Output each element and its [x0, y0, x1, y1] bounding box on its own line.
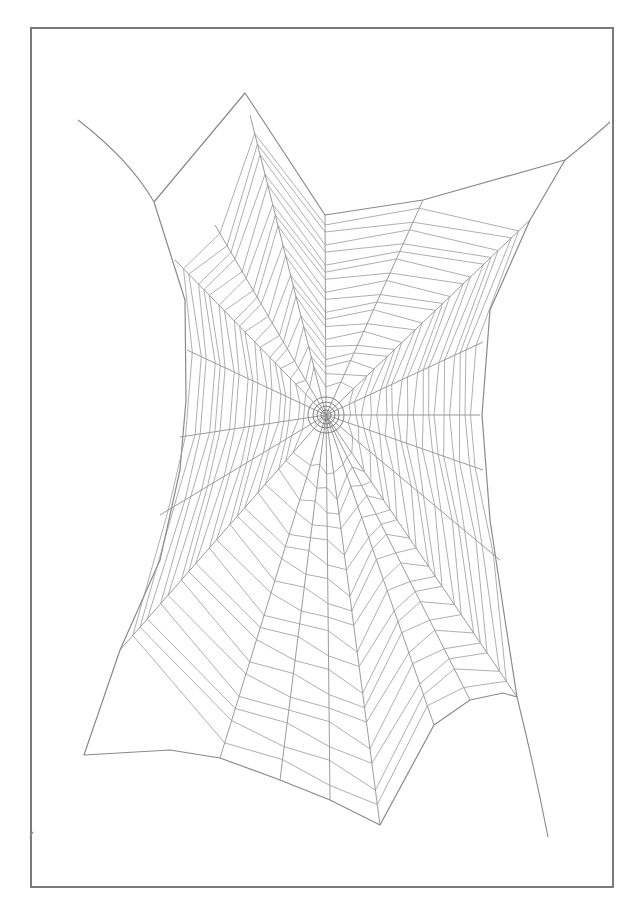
- spiral-thread: [293, 367, 353, 474]
- anchor-thread: [517, 697, 548, 837]
- spiral-thread: [147, 155, 498, 764]
- web-anchor-threads: [30, 120, 610, 838]
- radial-thread: [326, 415, 330, 800]
- web-frame-threads: [84, 93, 565, 825]
- radial-thread: [215, 225, 326, 415]
- radial-thread: [326, 220, 530, 415]
- radial-thread: [220, 415, 326, 758]
- anchor-thread: [78, 120, 154, 202]
- radial-thread: [326, 200, 423, 415]
- frame-thread: [84, 93, 565, 825]
- spiral-thread: [140, 144, 511, 790]
- spiral-thread: [189, 215, 464, 693]
- radial-thread: [175, 260, 326, 415]
- web-radial-threads: [120, 115, 530, 825]
- radial-thread: [326, 415, 517, 697]
- anchor-thread: [30, 832, 33, 838]
- spiral-thread: [181, 204, 470, 707]
- spider-web-illustration: [0, 0, 643, 908]
- web-spiral-threads: [133, 134, 519, 805]
- spiral-thread: [161, 174, 491, 749]
- anchor-thread: [565, 122, 610, 160]
